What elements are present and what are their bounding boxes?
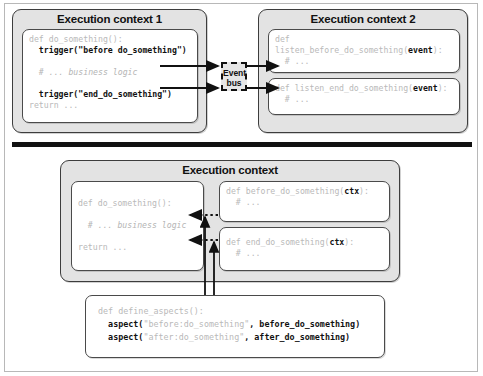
execution-context-title: Execution context bbox=[61, 164, 399, 176]
code-line: aspect("after:do_something", after_do_so… bbox=[98, 331, 372, 344]
code-token: # ... bbox=[226, 248, 261, 258]
code-token: # ... bbox=[226, 197, 261, 207]
code-line: # ... business logic bbox=[29, 67, 191, 78]
execution-context-2-panel: Execution context 2 deflisten_before_do_… bbox=[258, 9, 468, 133]
code-line: # ... bbox=[275, 56, 453, 67]
code-line: # ... bbox=[226, 197, 383, 208]
code-token: trigger( bbox=[29, 89, 78, 99]
code-line: def bbox=[275, 34, 453, 45]
end-do-something-code-block: def end_do_something(ctx): # ... bbox=[219, 227, 390, 271]
code-token: def bbox=[275, 34, 290, 44]
code-token: "after:do_something" bbox=[143, 332, 244, 342]
execution-context-panel: Execution context def do_something(): # … bbox=[60, 160, 400, 282]
listen-before-code-block: deflisten_before_do_something(event): # … bbox=[268, 29, 460, 73]
listen-end-code-block: def listen_end_do_something(event): # ..… bbox=[268, 78, 460, 115]
code-token: , before_do_something) bbox=[249, 319, 360, 329]
code-token: def do_something(): bbox=[29, 34, 123, 44]
code-token: listen_before_do_something( bbox=[275, 45, 408, 55]
section-divider bbox=[12, 142, 472, 147]
code-line: trigger("before do_something") bbox=[29, 45, 191, 56]
code-line: def do_something(): bbox=[29, 34, 191, 45]
code-token: # ... business logic bbox=[29, 67, 137, 77]
code-token: def end_do_something( bbox=[226, 237, 330, 247]
event-bus-label-line1: Event bbox=[223, 68, 245, 78]
code-line: return ... bbox=[29, 100, 191, 111]
code-line: def before_do_something(ctx): bbox=[226, 186, 383, 197]
code-line: listen_before_do_something(event): bbox=[275, 45, 453, 56]
diagram-root: Execution context 1 def do_something(): … bbox=[0, 0, 483, 376]
code-token: trigger( bbox=[29, 45, 78, 55]
code-token: return ... bbox=[78, 242, 127, 252]
code-line: trigger("end_do_something") bbox=[29, 89, 191, 100]
code-token: , after_do_something) bbox=[244, 332, 350, 342]
code-token: ): bbox=[438, 83, 448, 93]
code-token: def before_do_something( bbox=[226, 186, 344, 196]
code-token: # ... bbox=[275, 56, 310, 66]
code-token: event bbox=[408, 45, 433, 55]
code-token: def define_aspects(): bbox=[98, 306, 204, 316]
do-something-code-block: def do_something(): trigger("before do_s… bbox=[22, 29, 198, 123]
code-line bbox=[29, 78, 191, 89]
code-token: ): bbox=[344, 237, 354, 247]
code-token: "end_do_something" bbox=[78, 89, 167, 99]
code-line: def do_something(): bbox=[78, 198, 197, 209]
code-token: ) bbox=[167, 89, 172, 99]
code-token: aspect( bbox=[98, 332, 143, 342]
execution-context-1-panel: Execution context 1 def do_something(): … bbox=[12, 9, 207, 133]
code-token: ctx bbox=[344, 186, 359, 196]
code-line bbox=[29, 56, 191, 67]
event-bus-label-line2: bus bbox=[223, 78, 245, 88]
code-line bbox=[78, 231, 197, 242]
code-token: def listen_end_do_something( bbox=[275, 83, 413, 93]
execution-context-2-title: Execution context 2 bbox=[259, 13, 467, 25]
code-line bbox=[78, 209, 197, 220]
code-line: def define_aspects(): bbox=[98, 305, 372, 318]
code-token: return ... bbox=[29, 100, 78, 110]
code-token: ): bbox=[433, 45, 443, 55]
code-token: aspect( bbox=[98, 319, 143, 329]
execution-context-1-title: Execution context 1 bbox=[13, 13, 206, 25]
code-token: # ... bbox=[275, 94, 310, 104]
define-aspects-code-block: def define_aspects(): aspect("before:do_… bbox=[85, 295, 385, 358]
code-line: aspect("before:do_something", before_do_… bbox=[98, 318, 372, 331]
do-something-aop-code-block: def do_something(): # ... business logic… bbox=[71, 181, 204, 271]
code-line: def end_do_something(ctx): bbox=[226, 237, 383, 248]
before-do-something-code-block: def before_do_something(ctx): # ... bbox=[219, 181, 390, 222]
code-token: event bbox=[413, 83, 438, 93]
code-line: # ... bbox=[275, 94, 453, 105]
event-bus-node: Event bus bbox=[221, 62, 247, 91]
code-line: return ... bbox=[78, 242, 197, 253]
code-token: # ... business logic bbox=[78, 220, 186, 230]
code-token: ctx bbox=[330, 237, 345, 247]
code-token: def do_something(): bbox=[78, 198, 172, 208]
code-line: # ... business logic bbox=[78, 220, 197, 231]
code-token: "before:do_something" bbox=[143, 319, 249, 329]
code-line: def listen_end_do_something(event): bbox=[275, 83, 453, 94]
code-token: ) bbox=[182, 45, 187, 55]
code-token: ): bbox=[359, 186, 369, 196]
code-token: "before do_something" bbox=[78, 45, 182, 55]
code-line: # ... bbox=[226, 248, 383, 259]
